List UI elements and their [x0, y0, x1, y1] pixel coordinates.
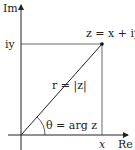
- modulus-label: r = |z|: [52, 79, 87, 93]
- x-label: x: [99, 138, 106, 150]
- re-axis-label: Re: [118, 138, 133, 150]
- im-axis-label: Im: [3, 2, 18, 15]
- point-z-label: z = x + iy: [86, 27, 135, 40]
- point-z: [100, 42, 104, 46]
- complex-plane-diagram: Im Re iy x z = x + iy r = |z| θ = arg z: [0, 0, 135, 150]
- iy-label: iy: [5, 38, 16, 51]
- angle-arc: [37, 117, 45, 135]
- angle-label: θ = arg z: [46, 119, 97, 132]
